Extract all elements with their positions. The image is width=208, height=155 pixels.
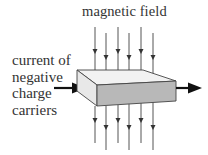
field-arrowheads-lower bbox=[93, 118, 156, 130]
current-label-line-1: current of bbox=[12, 52, 71, 69]
magnetic-field-label: magnetic field bbox=[82, 3, 167, 20]
current-label: current of negative charge carriers bbox=[12, 52, 71, 118]
current-label-line-3: charge bbox=[12, 85, 71, 102]
field-arrowheads-upper bbox=[93, 49, 156, 60]
conductor-slab bbox=[77, 70, 176, 106]
current-label-line-4: carriers bbox=[12, 102, 71, 119]
current-label-line-2: negative bbox=[12, 69, 71, 86]
hall-effect-diagram: magnetic field current of negative charg… bbox=[0, 0, 208, 155]
slab-front-face bbox=[97, 81, 176, 106]
outgoing-current-arrow bbox=[176, 83, 202, 94]
magnetic-field-lines-lower bbox=[95, 102, 153, 150]
